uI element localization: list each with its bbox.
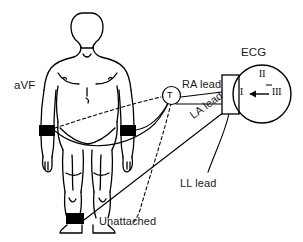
- arm-left-forearm-outer: [132, 136, 134, 157]
- arm-right-inner: [54, 90, 56, 126]
- leg-inner-detail-right: [72, 155, 73, 190]
- shin-left-inner: [94, 192, 96, 218]
- knee-right: [66, 173, 81, 175]
- head-outline: [71, 13, 103, 48]
- arm-left-outer: [131, 90, 134, 126]
- ll-lead-wire: [84, 112, 224, 220]
- ecg-lead-placement-diagram: ECG aVF RA lead LA lead LL lead Unattach…: [0, 0, 303, 242]
- diagram-canvas: [0, 0, 303, 242]
- pectoral-left: [58, 73, 79, 84]
- human-figure: [41, 13, 134, 233]
- calf-detail-right: [69, 198, 76, 202]
- arm-left-forearm-inner: [121, 136, 123, 157]
- arm-right-outer: [41, 90, 44, 126]
- leg-right-inner: [81, 150, 83, 192]
- hand-left: [123, 157, 132, 172]
- electrode-left-ankle: [66, 213, 84, 224]
- foot-right: [60, 225, 82, 233]
- abdomen-right: [117, 86, 119, 122]
- knee-left: [94, 173, 109, 175]
- unattached-lead-wire: [133, 103, 171, 223]
- ll-lead-label: LL lead: [180, 178, 216, 189]
- leg-inner-detail-left: [100, 155, 101, 190]
- abdomen-left: [57, 86, 59, 122]
- arm-right-forearm-outer: [41, 136, 43, 157]
- hand-right: [43, 157, 52, 172]
- unattached-label: Unattached: [99, 216, 156, 227]
- electrode-right-wrist: [39, 125, 55, 136]
- hand-left-fingers: [127, 162, 130, 170]
- inguinal-right: [88, 128, 115, 144]
- clavicle-notch: [83, 54, 91, 57]
- ra-lead-label: RA lead: [182, 79, 221, 90]
- hand-right-fingers: [45, 162, 48, 170]
- leg-right-outer: [63, 150, 65, 192]
- unattached-upper-dashed: [55, 97, 161, 128]
- ecg-vector-label-i: I: [240, 88, 243, 98]
- navel: [86, 98, 88, 103]
- calf-detail-left: [99, 198, 106, 202]
- ecg-title-label: ECG: [241, 47, 266, 59]
- pectoral-right: [96, 73, 117, 84]
- leg-left-inner: [92, 150, 94, 192]
- hip-right: [112, 122, 117, 150]
- leg-left-outer: [110, 150, 112, 192]
- arm-right-forearm-inner: [52, 136, 54, 157]
- ecg-vector-label-ii: II: [259, 70, 265, 80]
- avf-label: aVF: [14, 80, 35, 92]
- ecg-vector-label-iii: III: [272, 88, 282, 98]
- junction-t-label: T: [167, 91, 173, 100]
- electrode-left-wrist: [120, 125, 136, 136]
